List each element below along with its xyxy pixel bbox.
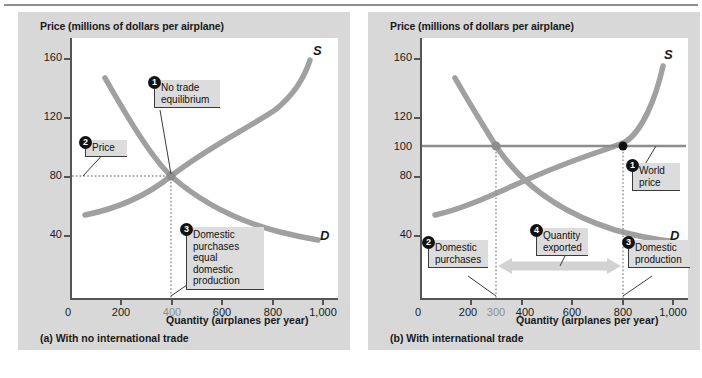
y-label-40-b: 40 xyxy=(378,228,412,240)
plot-area-a: 160 120 80 40 0 200 400 600 800 1,000 xyxy=(70,38,338,300)
panel-no-trade: Price (millions of dollars per airplane)… xyxy=(18,12,350,350)
y-label-40-a: 40 xyxy=(28,228,62,240)
callout-domestic-production-b: Domestic production xyxy=(628,240,690,268)
y-label-120-b: 120 xyxy=(378,110,412,122)
x-axis-title-b: Quantity (airplanes per year) xyxy=(516,314,658,326)
callout-bullet-1-b: 1 xyxy=(626,159,639,172)
y-axis-title-a: Price (millions of dollars per airplane) xyxy=(40,20,224,32)
callout-domestic-purchases-b: Domestic purchases xyxy=(428,240,488,268)
callout-bullet-1-a: 1 xyxy=(148,76,161,89)
x-label-0-a: 0 xyxy=(48,306,88,318)
x-axis-title-a: Quantity (airplanes per year) xyxy=(166,314,308,326)
panel-caption-b: (b) With international trade xyxy=(390,332,524,344)
x-label-1000-a: 1,000 xyxy=(303,306,343,318)
panel-with-trade: Price (millions of dollars per airplane)… xyxy=(368,12,700,350)
y-label-120-a: 120 xyxy=(28,110,62,122)
x-label-1000-b: 1,000 xyxy=(653,306,693,318)
x-label-0-b: 0 xyxy=(398,306,438,318)
y-label-100-b: 100 xyxy=(378,140,412,152)
callout-quantity-exported-b: Quantity exported xyxy=(536,228,588,256)
top-rule xyxy=(4,4,698,6)
callout-bullet-2-a: 2 xyxy=(79,136,92,149)
y-label-80-b: 80 xyxy=(378,169,412,181)
callout-bullet-3-b: 3 xyxy=(622,236,635,249)
y-label-160-a: 160 xyxy=(28,51,62,63)
callout-bullet-4-b: 4 xyxy=(530,224,543,237)
y-axis-title-b: Price (millions of dollars per airplane) xyxy=(390,20,574,32)
x-label-200-a: 200 xyxy=(101,306,141,318)
callout-domestic-purchases-equal-production-a: Domestic purchases equal domestic produc… xyxy=(186,227,264,290)
callout-no-trade-equilibrium-a: No trade equilibrium xyxy=(154,80,220,108)
callout-world-price-b: World price xyxy=(632,163,680,191)
panel-caption-a: (a) With no international trade xyxy=(40,332,189,344)
callout-bullet-3-a: 3 xyxy=(180,223,193,236)
y-label-80-a: 80 xyxy=(28,169,62,181)
y-label-160-b: 160 xyxy=(378,51,412,63)
figure-frame: Price (millions of dollars per airplane)… xyxy=(0,0,702,378)
plot-area-b: 160 120 100 80 40 0 200 300 400 600 800 … xyxy=(420,38,688,300)
callout-bullet-2-b: 2 xyxy=(422,236,435,249)
